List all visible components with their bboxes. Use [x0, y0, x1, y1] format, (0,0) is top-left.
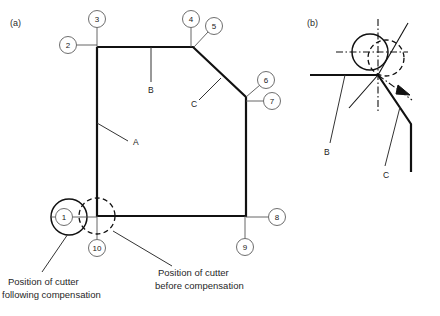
balloon-leader-6	[246, 85, 260, 97]
balloon-4[interactable]: 4	[183, 11, 200, 28]
centerline-diagonal-upright	[378, 23, 408, 75]
feature-label-c: C	[191, 99, 197, 109]
balloon-2-label: 2	[66, 41, 71, 50]
detail-leader-c	[385, 107, 400, 166]
balloon-1[interactable]: 1	[56, 209, 73, 226]
balloon-7[interactable]: 7	[264, 93, 281, 110]
compensation-direction-arrow-icon	[396, 85, 410, 95]
panel-tag-b: (b)	[307, 18, 318, 28]
detail-leader-b	[330, 75, 345, 143]
balloon-6[interactable]: 6	[258, 72, 275, 89]
balloon-9[interactable]: 9	[237, 239, 254, 256]
caption-following-line1: Position of cutter	[8, 276, 79, 287]
caption-leader-following	[42, 234, 68, 272]
centerline-diagonal-downright	[378, 75, 412, 100]
caption-leader-before	[113, 231, 172, 266]
feature-leader-a	[97, 123, 128, 141]
feature-label-b: B	[148, 85, 154, 95]
detail-label-b: B	[324, 147, 330, 157]
balloon-1-label: 1	[62, 213, 67, 222]
balloon-5[interactable]: 5	[206, 18, 223, 35]
caption-before-line1: Position of cutter	[158, 267, 229, 278]
balloon-7-label: 7	[270, 97, 275, 106]
feature-leader-c	[199, 78, 221, 100]
balloon-3[interactable]: 3	[89, 11, 106, 28]
feature-label-a: A	[133, 137, 139, 147]
balloon-10-label: 10	[93, 244, 102, 253]
workpiece-profile-outline	[97, 47, 246, 216]
balloon-leader-5	[194, 32, 208, 47]
technical-drawing: (a) (b) A B C 1	[0, 0, 440, 316]
detail-label-c: C	[383, 170, 389, 180]
balloon-2[interactable]: 2	[60, 37, 77, 54]
caption-before-line2: before compensation	[155, 280, 244, 291]
caption-following-line2: following compensation	[2, 289, 101, 300]
balloon-10[interactable]: 10	[89, 240, 106, 257]
figure-canvas: (a) (b) A B C 1	[0, 0, 440, 316]
balloon-6-label: 6	[264, 76, 269, 85]
balloon-8-label: 8	[275, 213, 280, 222]
balloon-9-label: 9	[243, 243, 248, 252]
balloon-5-label: 5	[212, 22, 217, 31]
caption-following-compensation: Position of cutter following compensatio…	[2, 276, 101, 300]
balloon-4-label: 4	[189, 15, 194, 24]
caption-before-compensation: Position of cutter before compensation	[155, 267, 244, 291]
balloon-8[interactable]: 8	[269, 209, 286, 226]
panel-tag-a: (a)	[10, 18, 21, 28]
detail-slanted-edge	[378, 75, 411, 172]
centerline-diagonal-downleft	[349, 75, 378, 108]
balloon-3-label: 3	[95, 15, 100, 24]
